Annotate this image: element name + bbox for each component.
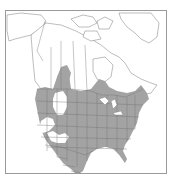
map-frame	[5, 10, 167, 174]
north-america-range-map	[6, 11, 167, 174]
land-outlines	[7, 13, 159, 99]
